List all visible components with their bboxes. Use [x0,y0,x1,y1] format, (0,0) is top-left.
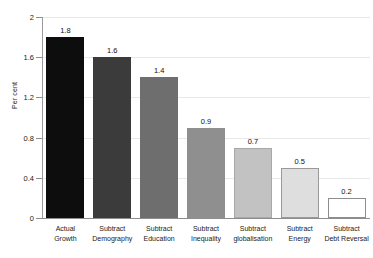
y-tick-label: 0.8 [0,133,34,142]
y-tick-label: 2 [0,13,34,22]
bar: 0.5 [281,168,319,218]
y-tick-label: 1.2 [0,93,34,102]
y-tick-label: 0.4 [0,173,34,182]
bar: 1.6 [93,57,131,218]
y-axis-line [42,17,43,219]
x-category-label: Subtract Education [136,224,183,243]
bar-value-label: 1.4 [154,66,164,75]
x-axis-line [42,218,370,219]
bar: 1.4 [140,77,178,218]
bar-chart: Per cent 00.40.81.21.62 1.81.61.40.90.70… [0,0,373,258]
bar-value-label: 0.7 [248,137,258,146]
gridline [42,97,370,98]
x-category-label: Subtract globalisation [229,224,276,243]
plot-area: 1.81.61.40.90.70.50.2 [42,17,370,218]
gridline [42,17,370,18]
bar: 0.2 [328,198,366,218]
y-tick-label: 0 [0,214,34,223]
gridline [42,57,370,58]
bar: 0.9 [187,128,225,218]
y-tick-label: 1.6 [0,53,34,62]
bar: 1.8 [46,37,84,218]
bar-value-label: 1.6 [107,46,117,55]
bar: 0.7 [234,148,272,218]
bar-value-label: 0.9 [201,117,211,126]
x-category-label: Subtract Debt Reversal [323,224,370,243]
x-category-label: Subtract Inequality [183,224,230,243]
bar-value-label: 0.5 [294,157,304,166]
x-category-label: Subtract Energy [276,224,323,243]
bar-value-label: 0.2 [341,187,351,196]
x-category-label: Subtract Demography [89,224,136,243]
x-category-label: Actual Growth [42,224,89,243]
bar-value-label: 1.8 [60,26,70,35]
